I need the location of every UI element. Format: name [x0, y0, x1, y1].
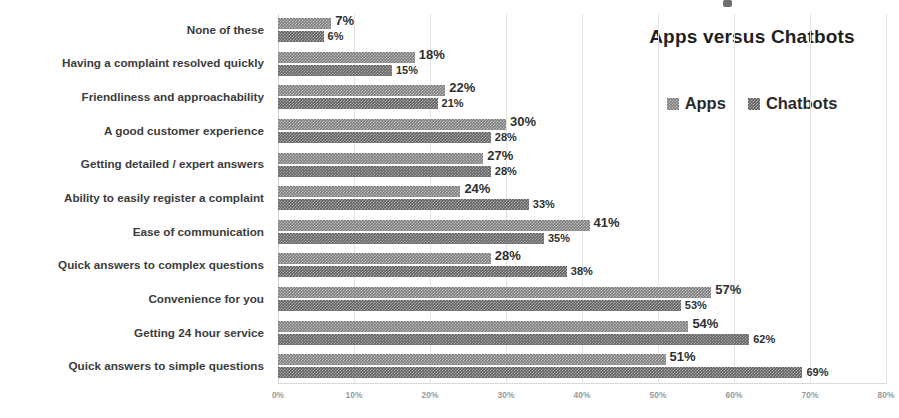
bar-apps — [278, 354, 666, 365]
bar-chatbots — [278, 31, 324, 42]
bar-value-label: 28% — [495, 131, 517, 143]
bar-value-label: 33% — [533, 198, 555, 210]
bar-group: 7%6% — [278, 14, 886, 48]
category-label: Quick answers to simple questions — [0, 359, 264, 372]
bar-chatbots — [278, 334, 749, 345]
bar-group: 28%38% — [278, 249, 886, 283]
bar-chatbots — [278, 300, 681, 311]
category-label: Getting detailed / expert answers — [0, 157, 264, 170]
x-tick-label: 30% — [498, 390, 515, 400]
bar-value-label: 53% — [685, 299, 707, 311]
bar-apps — [278, 119, 506, 130]
bar-value-label: 6% — [328, 30, 344, 42]
bar-apps — [278, 287, 711, 298]
bar-group: 30%28% — [278, 115, 886, 149]
category-label: Getting 24 hour service — [0, 326, 264, 339]
bar-apps — [278, 85, 445, 96]
bar-value-label: 22% — [449, 80, 475, 95]
bar-group: 22%21% — [278, 81, 886, 115]
bar-group: 57%53% — [278, 283, 886, 317]
bar-value-label: 15% — [396, 64, 418, 76]
bar-value-label: 21% — [442, 97, 464, 109]
chart-top-marker — [723, 0, 732, 7]
bar-apps — [278, 321, 688, 332]
bar-chatbots — [278, 266, 567, 277]
gridline — [886, 14, 887, 384]
category-label: Ease of communication — [0, 225, 264, 238]
bar-chatbots — [278, 166, 491, 177]
bar-value-label: 57% — [715, 282, 741, 297]
category-label: Ability to easily register a complaint — [0, 191, 264, 204]
bar-apps — [278, 186, 460, 197]
bar-apps — [278, 153, 483, 164]
bar-group: 41%35% — [278, 216, 886, 250]
bar-apps — [278, 220, 590, 231]
bar-group: 18%15% — [278, 48, 886, 82]
x-tick-label: 10% — [346, 390, 363, 400]
bar-value-label: 24% — [464, 181, 490, 196]
bar-value-label: 54% — [692, 316, 718, 331]
x-tick-label: 40% — [574, 390, 591, 400]
x-tick-label: 50% — [650, 390, 667, 400]
bar-group: 54%62% — [278, 317, 886, 351]
category-label: Convenience for you — [0, 292, 264, 305]
bar-chatbots — [278, 233, 544, 244]
bar-value-label: 28% — [495, 248, 521, 263]
bar-chatbots — [278, 199, 529, 210]
category-label: Having a complaint resolved quickly — [0, 56, 264, 69]
bar-group: 24%33% — [278, 182, 886, 216]
bar-value-label: 28% — [495, 165, 517, 177]
bar-group: 51%69% — [278, 350, 886, 384]
bar-chatbots — [278, 367, 802, 378]
x-tick-label: 0% — [272, 390, 284, 400]
bar-apps — [278, 52, 415, 63]
bar-chatbots — [278, 65, 392, 76]
bar-value-label: 62% — [753, 333, 775, 345]
bar-apps — [278, 18, 331, 29]
category-label: A good customer experience — [0, 124, 264, 137]
x-tick-label: 60% — [726, 390, 743, 400]
bar-value-label: 18% — [419, 47, 445, 62]
bar-value-label: 27% — [487, 148, 513, 163]
bar-value-label: 38% — [571, 265, 593, 277]
bar-value-label: 41% — [594, 215, 620, 230]
bar-value-label: 30% — [510, 114, 536, 129]
x-axis-tick-labels: 0%10%20%30%40%50%60%70%80% — [278, 388, 886, 410]
bar-group: 27%28% — [278, 149, 886, 183]
bar-chart: Apps versus Chatbots AppsChatbots None o… — [0, 0, 899, 418]
bar-value-label: 51% — [670, 349, 696, 364]
category-label: None of these — [0, 23, 264, 36]
x-tick-label: 20% — [422, 390, 439, 400]
x-tick-label: 80% — [878, 390, 895, 400]
category-axis-labels: None of theseHaving a complaint resolved… — [0, 14, 272, 384]
bar-apps — [278, 253, 491, 264]
bar-value-label: 35% — [548, 232, 570, 244]
category-label: Quick answers to complex questions — [0, 258, 264, 271]
x-tick-label: 70% — [802, 390, 819, 400]
category-label: Friendliness and approachability — [0, 90, 264, 103]
bar-value-label: 69% — [806, 366, 828, 378]
bar-chatbots — [278, 132, 491, 143]
bar-chatbots — [278, 98, 438, 109]
bar-value-label: 7% — [335, 13, 354, 28]
plot-area: 7%6%18%15%22%21%30%28%27%28%24%33%41%35%… — [278, 14, 886, 384]
